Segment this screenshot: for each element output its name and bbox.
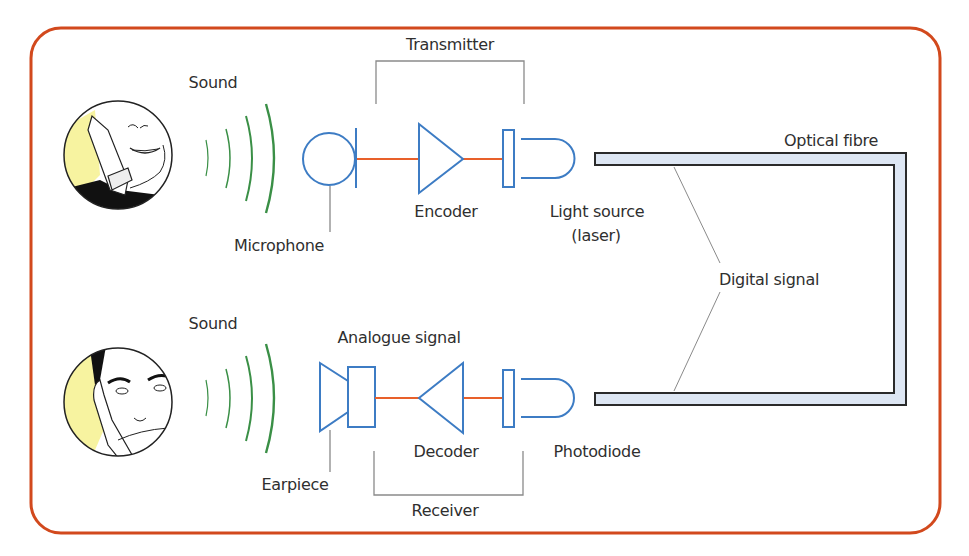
analogue-signal-label: Analogue signal [337, 329, 460, 347]
optical-fibre-communication-diagram [0, 0, 969, 556]
sound-label-top: Sound [189, 74, 238, 92]
photodiode-label: Photodiode [553, 443, 640, 461]
light-source-sublabel: (laser) [571, 227, 620, 245]
decoder-label: Decoder [413, 443, 478, 461]
microphone-symbol [303, 128, 356, 188]
digital-signal-leader-bottom [674, 292, 720, 391]
encoder-label: Encoder [414, 203, 477, 221]
light-source-symbol [503, 130, 575, 187]
light-source-label: Light source [550, 203, 645, 221]
digital-signal-leader-top [674, 167, 720, 263]
optical-fibre-label: Optical fibre [784, 132, 878, 150]
sound-waves-top-icon [206, 104, 274, 213]
transmitter-label: Transmitter [406, 36, 494, 54]
earpiece-label: Earpiece [261, 476, 328, 494]
sound-label-bottom: Sound [189, 315, 238, 333]
speaking-person-icon [60, 100, 180, 220]
listening-person-icon [60, 345, 180, 465]
microphone-label: Microphone [234, 237, 324, 255]
receiver-label: Receiver [412, 502, 479, 520]
encoder-symbol [419, 124, 463, 193]
transmitter-bracket [376, 61, 524, 104]
photodiode-symbol [503, 370, 574, 427]
sound-waves-bottom-icon [206, 344, 274, 453]
earpiece-symbol [320, 363, 375, 431]
digital-signal-label: Digital signal [719, 271, 819, 289]
decoder-symbol [419, 363, 463, 433]
